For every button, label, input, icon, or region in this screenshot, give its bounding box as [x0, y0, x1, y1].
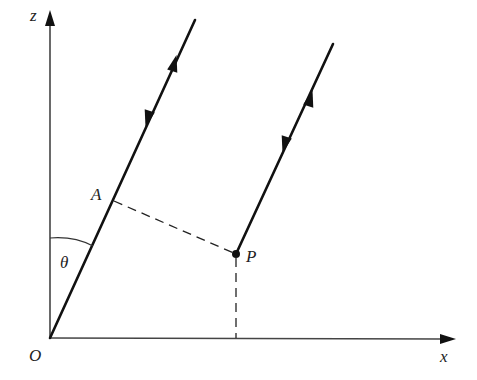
- x-axis: [50, 334, 456, 344]
- diagram-svg: z x O A P θ: [0, 0, 477, 380]
- point-a-label: A: [90, 185, 102, 204]
- z-axis-arrowhead-icon: [45, 10, 55, 26]
- x-axis-arrowhead-icon: [440, 334, 456, 344]
- point-p-label: P: [245, 247, 256, 266]
- theta-label: θ: [60, 253, 68, 272]
- x-axis-label: x: [439, 347, 448, 366]
- theta-arc: [50, 238, 93, 246]
- dashed-ap: [114, 201, 236, 254]
- line-oa: [50, 20, 195, 338]
- z-axis-label: z: [29, 6, 37, 25]
- line-oa-up-arrow-icon: [167, 55, 177, 73]
- origin-label: O: [29, 346, 41, 365]
- point-p-dot: [232, 250, 240, 258]
- line-p: [236, 44, 333, 254]
- z-axis: [45, 10, 55, 338]
- diagram-canvas: z x O A P θ: [0, 0, 477, 380]
